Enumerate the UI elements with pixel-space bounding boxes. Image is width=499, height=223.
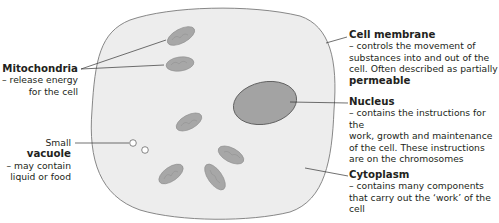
cell-membrane-desc-line: cell. Often described as partially xyxy=(349,63,499,74)
cell-membrane-permeable: permeable xyxy=(349,75,499,86)
cell-membrane-desc-line: substances into and out of the xyxy=(349,52,499,63)
vacuole-circle xyxy=(142,147,149,154)
vacuole-circle xyxy=(130,140,137,147)
mitochondria-desc-line: – release energy xyxy=(0,74,78,85)
vacuole-desc-line: liquid or food xyxy=(0,171,71,182)
nucleus-desc-line: are on the chromosomes xyxy=(349,153,499,164)
cytoplasm-title: Cytoplasm xyxy=(349,169,499,180)
cell-membrane-label: Cell membrane – controls the movement of… xyxy=(349,29,499,86)
nucleus-title: Nucleus xyxy=(349,96,499,107)
vacuole-desc-line: – may contain xyxy=(0,160,71,171)
mitochondria-title: Mitochondria xyxy=(0,63,78,74)
vacuole-prefix: Small xyxy=(45,137,71,148)
nucleus-desc-line: of the cell. These instructions xyxy=(349,142,499,153)
cell-membrane-outline xyxy=(91,8,335,219)
cell-membrane-leader-line xyxy=(326,37,347,43)
cell-membrane-desc-line: – controls the movement of xyxy=(349,40,499,51)
vacuole-label: Small vacuole – may contain liquid or fo… xyxy=(0,137,71,183)
cytoplasm-desc-line: cell xyxy=(349,203,499,214)
nucleus-desc-line: – contains the instructions for the xyxy=(349,107,499,130)
cytoplasm-desc-line: – contains many components xyxy=(349,180,499,191)
vacuole-title: vacuole xyxy=(27,148,71,159)
mitochondria-label: Mitochondria – release energy for the ce… xyxy=(0,63,78,97)
mitochondria-desc-line: for the cell xyxy=(0,86,78,97)
cytoplasm-desc-line: that carry out the ‘work’ of the xyxy=(349,192,499,203)
cytoplasm-label: Cytoplasm – contains many components tha… xyxy=(349,169,499,215)
cell-membrane-title: Cell membrane xyxy=(349,29,499,40)
nucleus-label: Nucleus – contains the instructions for … xyxy=(349,96,499,164)
nucleus-desc-line: work, growth and maintenance xyxy=(349,130,499,141)
